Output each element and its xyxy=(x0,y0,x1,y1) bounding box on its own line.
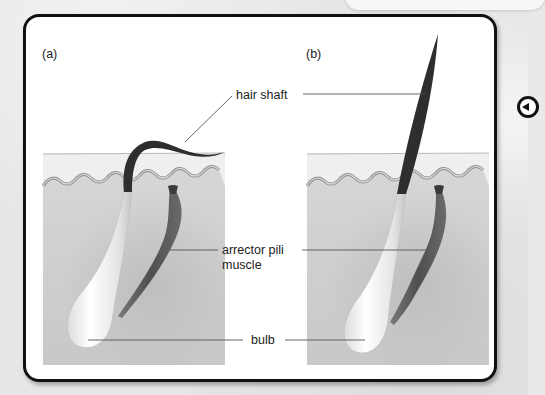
hair-shaft-label: hair shaft xyxy=(236,88,287,103)
bulb-label: bulb xyxy=(251,333,275,348)
panel-a xyxy=(43,141,225,365)
arrector-pili-label-line2: muscle xyxy=(222,258,262,273)
panel-a-label: (a) xyxy=(42,47,57,62)
circle-arrow-left-icon[interactable] xyxy=(517,96,539,118)
panel-b xyxy=(307,34,489,365)
arrector-pili-label-line1: arrector pili xyxy=(222,243,284,258)
panel-b-label: (b) xyxy=(306,47,321,62)
